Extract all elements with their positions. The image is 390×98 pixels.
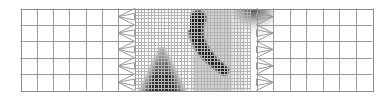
mesh-figure: Adaptive mesh refinement domain with sca… [0, 0, 390, 98]
amr-mesh-canvas [0, 0, 390, 98]
